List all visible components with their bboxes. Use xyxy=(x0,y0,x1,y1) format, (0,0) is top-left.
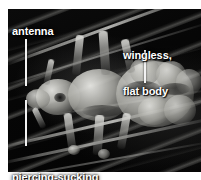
label-mouthparts-line-1: piercing-sucking xyxy=(12,171,98,180)
label-wingless-line-2: flat body xyxy=(123,85,172,97)
louse-leg-upper-front xyxy=(72,35,84,76)
louse-leg-upper-mid xyxy=(98,31,110,76)
label-piercing-sucking-mouthparts: piercing-sucking mouthparts xyxy=(12,147,98,180)
label-antenna: antenna xyxy=(12,25,53,37)
louse-claw xyxy=(98,149,110,159)
figure-photomicrograph: antenna wingless, flat body piercing-suc… xyxy=(0,0,201,180)
louse-eye-spot xyxy=(54,93,66,102)
leader-line-antenna xyxy=(25,39,27,86)
louse-mouthparts xyxy=(26,89,50,109)
leader-line-piercing-sucking-mouthparts xyxy=(25,100,27,146)
label-wingless-line-1: wingless, xyxy=(123,49,172,61)
label-wingless-flat-body: wingless, flat body xyxy=(123,25,172,121)
